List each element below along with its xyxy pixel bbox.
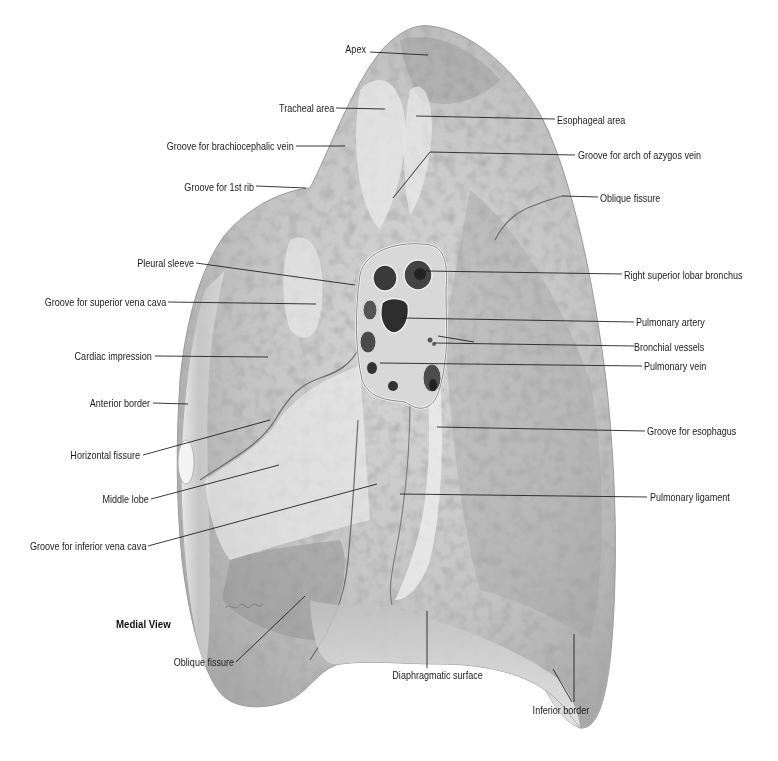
label-esophageal-area: Esophageal area <box>557 114 625 126</box>
label-cardiac-impression: Cardiac impression <box>75 350 152 362</box>
label-diaphragmatic-surface: Diaphragmatic surface <box>392 669 482 681</box>
label-pulmonary-vein: Pulmonary vein <box>644 360 706 372</box>
lung-medial-view-figure: Apex Tracheal area Esophageal area Groov… <box>0 0 778 761</box>
label-groove-1st-rib: Groove for 1st rib <box>184 181 254 193</box>
label-bronchial-vessels: Bronchial vessels <box>634 341 704 353</box>
label-inferior-border: Inferior border <box>533 704 590 716</box>
label-oblique-fissure-upper: Oblique fissure <box>600 192 660 204</box>
leader-groove-1st-rib <box>256 186 306 188</box>
label-pleural-sleeve: Pleural sleeve <box>137 257 194 269</box>
label-anterior-border: Anterior border <box>90 397 150 409</box>
label-pulmonary-ligament: Pulmonary ligament <box>650 491 730 503</box>
label-groove-arch-azygos-vein: Groove for arch of azygos vein <box>578 149 701 161</box>
label-right-superior-lobar-bronchus: Right superior lobar bronchus <box>624 269 742 281</box>
view-title: Medial View <box>116 618 171 630</box>
label-apex: Apex <box>345 43 366 55</box>
label-middle-lobe: Middle lobe <box>103 493 149 505</box>
label-groove-superior-vena-cava: Groove for superior vena cava <box>45 296 166 308</box>
label-groove-inferior-vena-cava: Groove for inferior vena cava <box>30 540 146 552</box>
label-groove-esophagus: Groove for esophagus <box>647 425 736 437</box>
hilum <box>356 244 446 408</box>
label-tracheal-area: Tracheal area <box>279 102 334 114</box>
label-oblique-fissure-lower: Oblique fissure <box>174 656 234 668</box>
label-groove-brachiocephalic-vein: Groove for brachiocephalic vein <box>167 140 294 152</box>
lung-illustration <box>0 0 778 761</box>
label-pulmonary-artery: Pulmonary artery <box>636 316 705 328</box>
label-horizontal-fissure: Horizontal fissure <box>70 449 140 461</box>
